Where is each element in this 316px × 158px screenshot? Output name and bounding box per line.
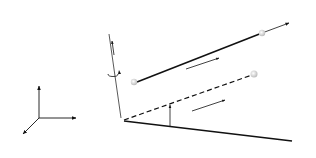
rotation-axis-e-ba — [0, 0, 121, 118]
node-b-prime — [259, 30, 265, 36]
e-b-tangent-arrow — [186, 58, 219, 69]
rotation-curl-icon — [108, 74, 118, 77]
coordinate-axes — [23, 86, 76, 134]
node-a-prime — [131, 79, 137, 85]
reference-beam — [124, 121, 298, 143]
e-dashed-arrow — [192, 100, 225, 111]
deformed-beam — [0, 0, 289, 85]
projected-node — [251, 71, 258, 78]
beam-ab — [124, 121, 292, 141]
rotation-arrowhead-icon — [118, 70, 121, 74]
x-hat-b-arrow — [262, 23, 289, 33]
beam-ab-prime — [137, 33, 262, 82]
x-axis — [23, 118, 39, 134]
e-ba-arrow — [112, 41, 114, 55]
beam-kinematics-diagram — [0, 0, 316, 158]
dashed-line — [124, 75, 252, 120]
